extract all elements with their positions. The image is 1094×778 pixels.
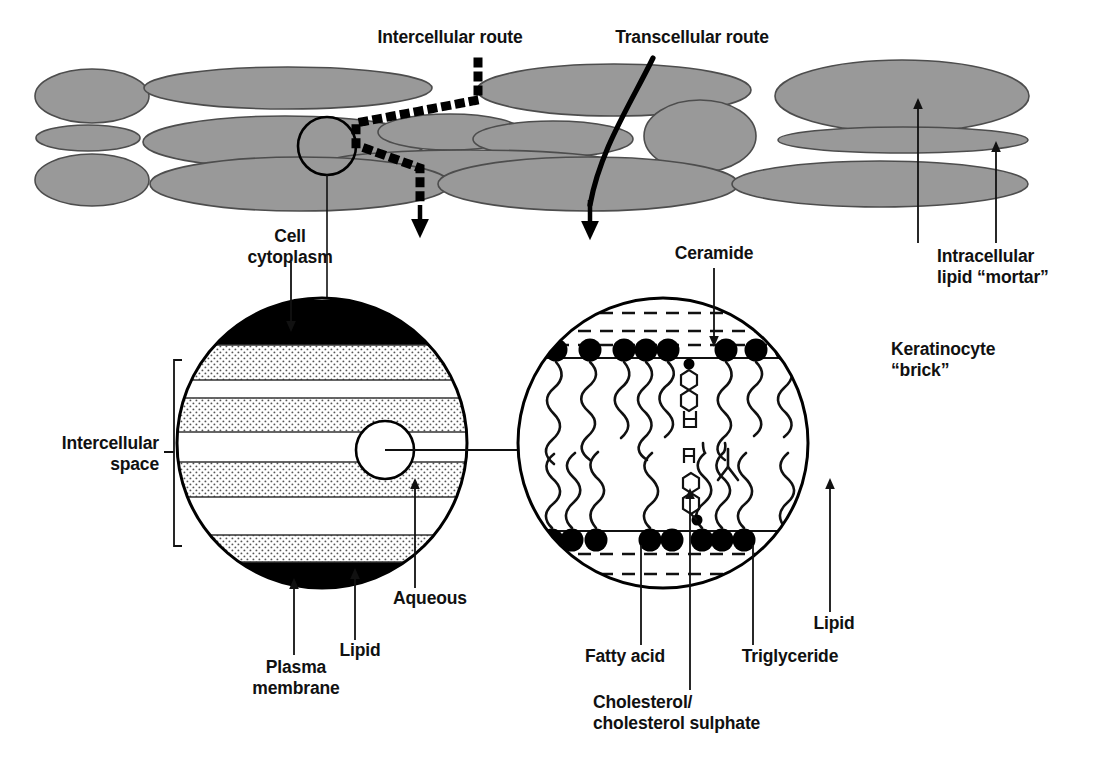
keratinocyte-cell <box>778 127 1028 153</box>
cell-cytoplasm-label-line1: Cell <box>274 226 306 247</box>
transcellular-route-label: Transcellular route <box>615 27 769 48</box>
plasma-membrane-band <box>170 300 480 345</box>
keratinocyte-cell <box>36 125 140 151</box>
diagram-graphics <box>0 0 1094 778</box>
keratinocyte-label-line1: Keratinocyte <box>891 339 995 360</box>
cell-cytoplasm-label-line2: cytoplasm <box>247 247 332 268</box>
plasma-membrane-label-line1: Plasma <box>266 657 326 678</box>
intracellular-lipid-label-line1: Intracellular <box>937 246 1034 267</box>
lipid-band <box>170 462 480 497</box>
keratinocyte-cell <box>35 154 149 206</box>
aqueous-label: Aqueous <box>393 588 467 609</box>
lipid-right-label: Lipid <box>813 613 854 634</box>
intracellular-lipid-label-line2: lipid “mortar” <box>937 267 1049 288</box>
triglyceride-label: Triglyceride <box>742 646 838 667</box>
intercellular-space-label-line1: Intercellular <box>62 433 159 454</box>
cholesterol-label-line1: Cholesterol/ <box>593 692 692 713</box>
fatty-acid-label: Fatty acid <box>585 646 665 667</box>
intercellular-space-label-line2: space <box>110 454 159 475</box>
lipid-left-label: Lipid <box>339 640 380 661</box>
cholesterol-label-line2: cholesterol sulphate <box>593 713 760 734</box>
keratinocyte-cell <box>35 69 149 123</box>
lipid-bilayer-magnification <box>510 290 820 600</box>
keratinocyte-cell <box>732 161 1028 207</box>
keratinocyte-cell-layer <box>35 60 1029 211</box>
intercellular-route-label: Intercellular route <box>378 27 523 48</box>
keratinocyte-label-line2: “brick” <box>891 360 949 381</box>
polar-head-group-row-upper <box>545 339 798 362</box>
intercellular-space-magnification <box>170 290 533 607</box>
ceramide-label: Ceramide <box>675 243 754 264</box>
lipid-band <box>170 398 480 432</box>
keratinocyte-cell <box>775 60 1029 132</box>
plasma-membrane-label-line2: membrane <box>252 678 339 699</box>
figure-canvas: Intercellular route Transcellular route … <box>0 0 1094 778</box>
lipid-band <box>170 535 480 562</box>
keratinocyte-cell <box>144 67 432 109</box>
